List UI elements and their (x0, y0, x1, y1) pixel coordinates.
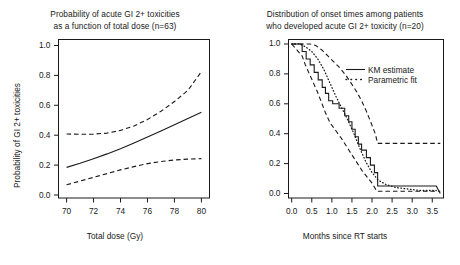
x-tick-label: 72 (79, 206, 109, 216)
curve-km-estimate (292, 44, 441, 194)
y-tick-label: 0.2 (23, 160, 51, 170)
curve-lower-confidence (67, 159, 202, 185)
x-axis-ticks-left (67, 198, 202, 203)
x-tick-label: 74 (106, 206, 136, 216)
x-axis-ticks-right (292, 198, 433, 203)
y-tick-label: 0.4 (253, 128, 281, 138)
x-tick-label: 78 (159, 206, 189, 216)
curve-parametric-fit (292, 44, 437, 191)
plot-frame-right (289, 40, 444, 199)
x-tick-label: 70 (52, 206, 82, 216)
chart-panel-left: Probability of acute GI 2+ toxicitiesas … (0, 0, 230, 265)
y-tick-label: 0.0 (253, 188, 281, 198)
y-tick-label: 0.0 (23, 190, 51, 200)
x-tick-label: 76 (132, 206, 162, 216)
chart-panel-right: Distribution of onset times among patien… (230, 0, 460, 265)
y-tick-label: 1.0 (253, 38, 281, 48)
legend-label-km-estimate: KM estimate (368, 65, 414, 75)
y-tick-label: 0.6 (23, 100, 51, 110)
curve-fitted-probability (67, 112, 202, 167)
y-tick-label: 0.8 (253, 68, 281, 78)
legend-label-parametric-fit: Parametric fit (368, 75, 417, 85)
y-axis-label-left: Probability of GI 2+ toxicities (12, 83, 22, 188)
two-panel-figure: Probability of acute GI 2+ toxicitiesas … (0, 0, 460, 265)
x-tick-label: 80 (186, 206, 216, 216)
curve-upper-confidence-band (292, 44, 441, 143)
y-tick-label: 0.2 (253, 158, 281, 168)
y-tick-label: 0.4 (23, 130, 51, 140)
x-axis-label-right: Months since RT starts (230, 231, 460, 241)
y-axis-ticks-left (54, 45, 59, 195)
curve-upper-confidence (67, 72, 202, 135)
y-axis-ticks-right (284, 44, 289, 194)
x-tick-label: 3.5 (417, 206, 447, 216)
y-tick-label: 1.0 (23, 40, 51, 50)
y-tick-label: 0.8 (23, 70, 51, 80)
y-tick-label: 0.6 (253, 98, 281, 108)
x-axis-label-left: Total dose (Gy) (0, 231, 230, 241)
